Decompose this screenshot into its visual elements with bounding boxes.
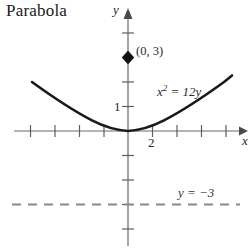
x-tick-label-2: 2 [148, 136, 155, 149]
y-axis-arrow-icon [124, 8, 133, 19]
directrix-equation-label: y = −3 [178, 186, 214, 199]
x-axis-label: x [242, 134, 248, 147]
y-axis-label: y [113, 3, 119, 16]
page-title: Parabola [6, 2, 67, 19]
parabola-curve [32, 76, 232, 132]
parabola-plot [0, 0, 250, 248]
curve-equation-label: x2 = 12y [157, 84, 201, 98]
focus-point-label: (0, 3) [136, 45, 163, 58]
focus-point-marker [122, 51, 134, 65]
parabola-figure: Parabola y x 1 2 (0, 3) x2 = 12y y = −3 [0, 0, 250, 248]
curve-equation-rest: = 12y [167, 84, 201, 99]
y-tick-label-1: 1 [114, 100, 121, 113]
